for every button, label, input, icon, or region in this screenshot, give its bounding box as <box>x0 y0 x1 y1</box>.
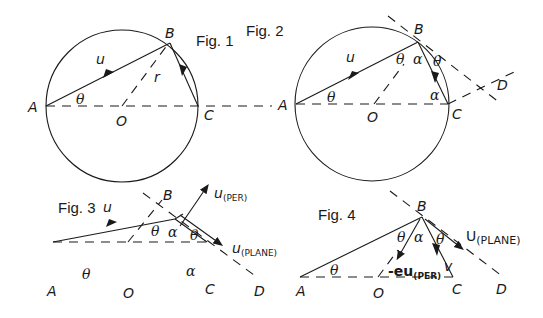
diagram-canvas: Fig. 1 B u r θ A O C Fig. 2 B u θ α θ θ … <box>0 0 543 318</box>
fig3-arrow-u-icon <box>106 219 117 227</box>
figure-1: Fig. 1 B u r θ A O C <box>27 25 272 182</box>
fig1-radius-r <box>122 44 168 106</box>
fig4-label-c: C <box>452 281 462 297</box>
fig3-arrow-u-per <box>180 188 206 226</box>
fig4-label-u-plane: U(PLANE) <box>466 228 521 247</box>
fig3-label-theta-bottom: θ <box>82 266 91 282</box>
fig4-label-o: O <box>373 285 384 301</box>
fig1-label-theta: θ <box>76 91 85 107</box>
fig4-label-b: B <box>417 198 427 214</box>
fig1-label-a: A <box>27 99 38 115</box>
figure-3: Fig. 3 B u(PER) u(PLANE) u θ α θ θ α A O… <box>46 185 277 301</box>
fig2-label-alpha-bottom: α <box>430 87 440 103</box>
fig2-label-a: A <box>277 97 288 113</box>
fig4-label-theta-top: θ <box>397 229 406 245</box>
fig2-label-theta-bottom: θ <box>327 89 336 105</box>
fig3-label-d: D <box>254 283 265 299</box>
fig2-radius-dashed <box>374 64 404 104</box>
fig2-label-theta-top: θ <box>396 51 405 67</box>
fig1-title: Fig. 1 <box>196 32 234 49</box>
fig4-label-d: D <box>496 281 507 297</box>
fig4-label-a: A <box>295 283 306 299</box>
fig4-label-alpha-top: α <box>414 229 424 245</box>
figure-4: Fig. 4 B U(PLANE) θ α θ v -eu(PER) θ A O… <box>295 191 521 301</box>
fig4-label-neg-eu-per: -eu(PER) <box>388 263 441 281</box>
fig2-label-u: u <box>346 49 355 65</box>
fig2-tangent-dashed <box>388 16 500 103</box>
fig1-label-o: O <box>116 113 127 129</box>
fig3-label-c: C <box>205 281 215 297</box>
fig2-label-o: O <box>367 109 378 125</box>
fig2-label-b: B <box>414 21 424 37</box>
fig3-label-alpha-top: α <box>168 224 178 240</box>
fig3-label-b: B <box>163 187 173 203</box>
fig2-label-alpha-top: α <box>413 51 423 67</box>
fig1-label-u: u <box>96 51 105 67</box>
fig2-arrow-bc-icon <box>431 71 439 83</box>
fig3-title: Fig. 3 <box>58 199 96 216</box>
fig2-label-c: C <box>452 106 462 122</box>
fig4-label-theta-right: θ <box>436 231 445 247</box>
fig2-title: Fig. 2 <box>246 22 284 39</box>
fig4-label-v: v <box>444 258 453 274</box>
fig3-tangent-dashed <box>143 193 258 278</box>
fig2-label-d: D <box>497 77 508 93</box>
fig1-label-c: C <box>204 107 214 123</box>
fig3-arrow-u-plane <box>180 215 219 243</box>
fig2-label-theta-right: θ <box>433 53 442 69</box>
fig3-label-u-plane: u(PLANE) <box>232 240 277 258</box>
fig1-label-b: B <box>165 25 175 41</box>
fig3-label-theta-right: θ <box>190 227 199 243</box>
fig4-label-theta-bottom: θ <box>330 262 339 278</box>
fig1-label-r: r <box>154 69 161 85</box>
fig1-chord-bc <box>170 43 198 106</box>
figure-2: Fig. 2 B u θ α θ θ α A O C D <box>246 16 514 181</box>
fig4-title: Fig. 4 <box>318 206 356 223</box>
fig3-label-o: O <box>123 285 134 301</box>
fig3-label-theta-top: θ <box>151 223 160 239</box>
fig3-label-u: u <box>103 199 112 215</box>
fig1-arrow-bc-icon <box>179 64 187 76</box>
fig3-label-u-per: u(PER) <box>214 185 247 203</box>
fig1-arrow-u-icon <box>103 69 114 78</box>
fig3-label-alpha-bottom: α <box>186 263 196 279</box>
fig3-label-a: A <box>46 283 57 299</box>
